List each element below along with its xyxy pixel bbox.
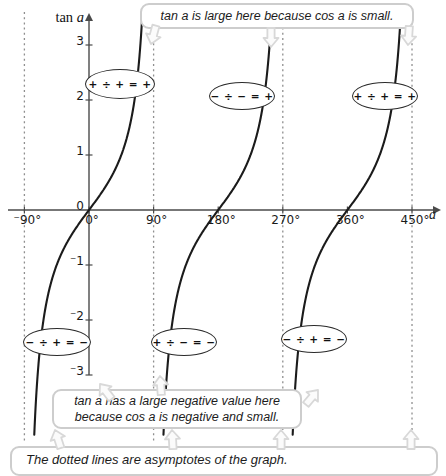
- callout-tan-large-negative: tan a has a large negative value here be…: [52, 389, 302, 429]
- y-tick-label: 1: [40, 144, 84, 158]
- sign-badge: + ÷ + = +: [85, 69, 155, 99]
- x-tick-label: ⁻90°: [5, 213, 49, 227]
- callout-negative-line2: because cos a is negative and small.: [75, 409, 279, 426]
- callout-negative-line1: tan a has a large negative value here: [74, 393, 280, 410]
- callout-tan-large-text: tan a is large here because cos a is sma…: [161, 8, 394, 25]
- sign-badge: − ÷ − = +: [209, 82, 275, 110]
- callout-asymptote-text: The dotted lines are asymptotes of the g…: [26, 452, 288, 469]
- y-tick-label: 2: [40, 89, 84, 103]
- y-axis-arrowhead: [85, 13, 93, 21]
- y-axis-title-prefix: tan: [55, 9, 73, 25]
- y-tick-label: ⁻2: [40, 309, 84, 323]
- y-tick-label: 3: [40, 34, 84, 48]
- x-tick-label: 180°: [199, 213, 243, 227]
- y-tick-label: 0: [40, 199, 84, 213]
- x-tick-label: 360°: [328, 213, 372, 227]
- y-tick-label: ⁻3: [40, 364, 84, 378]
- sign-badge: − ÷ + = −: [281, 325, 347, 353]
- sign-badge: + ÷ + = +: [352, 82, 418, 110]
- sign-badge: + ÷ − = −: [151, 328, 217, 356]
- y-tick-label: ⁻1: [40, 254, 84, 268]
- x-tick-label: 0°: [70, 213, 114, 227]
- y-axis-title: tan a: [18, 10, 84, 25]
- y-axis-title-variable: a: [77, 9, 84, 25]
- callout-asymptote-note: The dotted lines are asymptotes of the g…: [10, 446, 438, 476]
- x-tick-label: 450°: [393, 213, 437, 227]
- x-tick-label: 90°: [135, 213, 179, 227]
- x-tick-label: 270°: [264, 213, 308, 227]
- callout-tan-large: tan a is large here because cos a is sma…: [140, 3, 414, 29]
- sign-badge: − ÷ + = −: [23, 328, 91, 356]
